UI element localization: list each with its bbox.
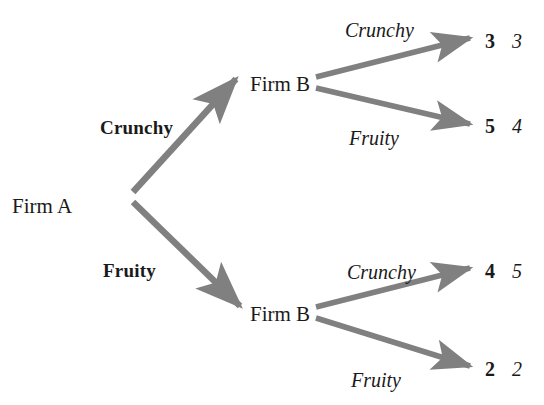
payoff-b-outcome-cc: 3: [512, 31, 522, 51]
action-label-b-top-crunchy: Crunchy: [345, 20, 414, 40]
branch-b-top-crunchy: [316, 38, 470, 77]
action-label-a-fruity: Fruity: [103, 261, 156, 280]
branch-b-top-fruity: [316, 88, 470, 124]
payoff-a-outcome-cf: 5: [485, 116, 495, 136]
action-label-b-bottom-fruity: Fruity: [351, 370, 401, 390]
node-firm-b-bottom: Firm B: [250, 304, 310, 325]
branch-a-fruity: [133, 202, 240, 306]
node-firm-b-top: Firm B: [250, 74, 310, 95]
game-tree-diagram: Firm A Firm B Firm B Crunchy Fruity Crun…: [0, 0, 544, 405]
payoff-b-outcome-fc: 5: [512, 261, 522, 281]
payoff-a-outcome-cc: 3: [485, 31, 495, 51]
action-label-b-top-fruity: Fruity: [349, 128, 399, 148]
payoff-b-outcome-ff: 2: [512, 359, 522, 379]
node-firm-a: Firm A: [12, 196, 72, 217]
payoff-b-outcome-cf: 4: [512, 116, 522, 136]
branch-b-bottom-fruity: [316, 318, 470, 366]
payoff-a-outcome-ff: 2: [485, 359, 495, 379]
action-label-b-bottom-crunchy: Crunchy: [347, 262, 416, 282]
action-label-a-crunchy: Crunchy: [100, 118, 173, 137]
payoff-a-outcome-fc: 4: [485, 261, 495, 281]
tree-branches-svg: [0, 0, 544, 405]
